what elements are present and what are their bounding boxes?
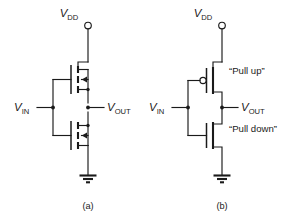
- nmos-symbol-a: [53, 112, 90, 150]
- figure-container: VDD VIN VOUT (a): [0, 0, 293, 223]
- nmos-drain-wire-b: [213, 108, 222, 125]
- nmos-symbol-b: [188, 108, 222, 176]
- pmos-arrow-a: [82, 77, 87, 83]
- pmos-inversion-bubble-b: [200, 77, 206, 83]
- vdd-terminal-a: [85, 22, 92, 29]
- ground-symbol-b: [214, 176, 231, 183]
- circuit-diagram: VDD VIN VOUT (a): [0, 0, 293, 223]
- vin-label-b: VIN: [149, 101, 164, 116]
- vin-label-a: VIN: [14, 101, 29, 116]
- pmos-source-wire-b: [213, 62, 222, 69]
- pmos-junction-dot-a: [86, 88, 89, 91]
- pmos-source-wire-a: [78, 62, 88, 68]
- ground-symbol-a: [80, 176, 97, 183]
- pull-down-label: “Pull down”: [229, 123, 277, 134]
- vdd-label-a: VDD: [60, 7, 79, 22]
- vdd-terminal-b: [219, 22, 226, 29]
- nmos-source-wire-b: [213, 147, 222, 175]
- pmos-symbol-a: [53, 65, 90, 103]
- circuit-a: VDD VIN VOUT (a): [14, 7, 131, 211]
- circuit-b: VDD VIN VOUT “Pull up” “Pull down” (b): [149, 7, 277, 211]
- pmos-drain-wire-b: [213, 92, 222, 108]
- vout-label-a: VOUT: [107, 101, 131, 116]
- pmos-symbol-b: [188, 67, 222, 108]
- vin-node-dot-b: [186, 106, 190, 110]
- vdd-label-b: VDD: [194, 7, 213, 22]
- pull-up-label: “Pull up”: [229, 65, 265, 76]
- vin-node-dot-a: [51, 106, 55, 110]
- vout-label-b: VOUT: [241, 101, 265, 116]
- nmos-arrow-a: [82, 133, 87, 139]
- caption-a: (a): [82, 201, 93, 211]
- nmos-junction-dot-a: [86, 124, 89, 127]
- caption-b: (b): [216, 201, 227, 211]
